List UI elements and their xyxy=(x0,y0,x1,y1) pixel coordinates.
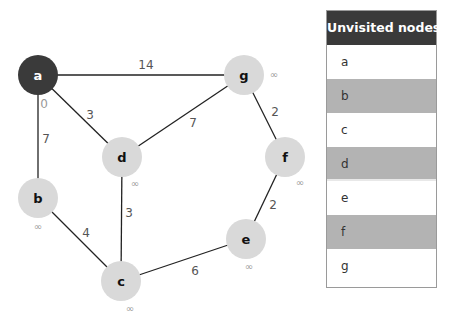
node-distance-d: ∞ xyxy=(131,178,139,189)
node-g: g∞ xyxy=(224,55,278,95)
node-c: c∞ xyxy=(101,261,141,314)
table-row-b: b xyxy=(327,79,436,113)
table-row-f: f xyxy=(327,215,436,249)
node-label-a: a xyxy=(34,68,43,83)
node-distance-g: ∞ xyxy=(270,69,278,80)
graph-nodes: a0g∞d∞f∞b∞e∞c∞ xyxy=(18,55,305,314)
edge-g-d xyxy=(122,75,244,157)
edge-weight-g-d: 7 xyxy=(189,116,197,130)
table-row-e: e xyxy=(327,181,436,215)
edge-weight-a-g: 14 xyxy=(138,58,153,72)
node-label-g: g xyxy=(239,68,248,83)
node-label-c: c xyxy=(117,274,125,289)
edge-weight-a-d: 3 xyxy=(86,108,94,122)
edge-weight-g-f: 2 xyxy=(271,105,279,119)
node-label-e: e xyxy=(242,232,251,247)
node-label-f: f xyxy=(282,150,288,165)
node-f: f∞ xyxy=(265,137,305,188)
table-row-g: g xyxy=(327,249,436,287)
table-row-a: a xyxy=(327,45,436,79)
node-distance-e: ∞ xyxy=(245,261,253,272)
edge-weight-d-c: 3 xyxy=(125,206,133,220)
node-distance-f: ∞ xyxy=(296,177,304,188)
node-distance-c: ∞ xyxy=(126,303,134,314)
unvisited-nodes-table: Unvisited nodes a b c d e f g xyxy=(326,10,437,288)
node-distance-b: ∞ xyxy=(34,221,42,232)
table-row-c: c xyxy=(327,113,436,147)
node-b: b∞ xyxy=(18,178,58,232)
edge-weight-b-c: 4 xyxy=(82,226,90,240)
node-distance-a: 0 xyxy=(40,97,48,111)
node-label-b: b xyxy=(33,191,42,206)
node-label-d: d xyxy=(117,150,126,165)
node-e: e∞ xyxy=(226,219,266,272)
edge-weight-f-e: 2 xyxy=(269,198,277,212)
edge-weight-a-b: 7 xyxy=(42,132,50,146)
table-row-d: d xyxy=(327,147,436,181)
graph-diagram: 1473723426 a0g∞d∞f∞b∞e∞c∞ xyxy=(0,0,320,329)
edge-weight-c-e: 6 xyxy=(191,264,199,278)
table-header: Unvisited nodes xyxy=(327,11,436,45)
